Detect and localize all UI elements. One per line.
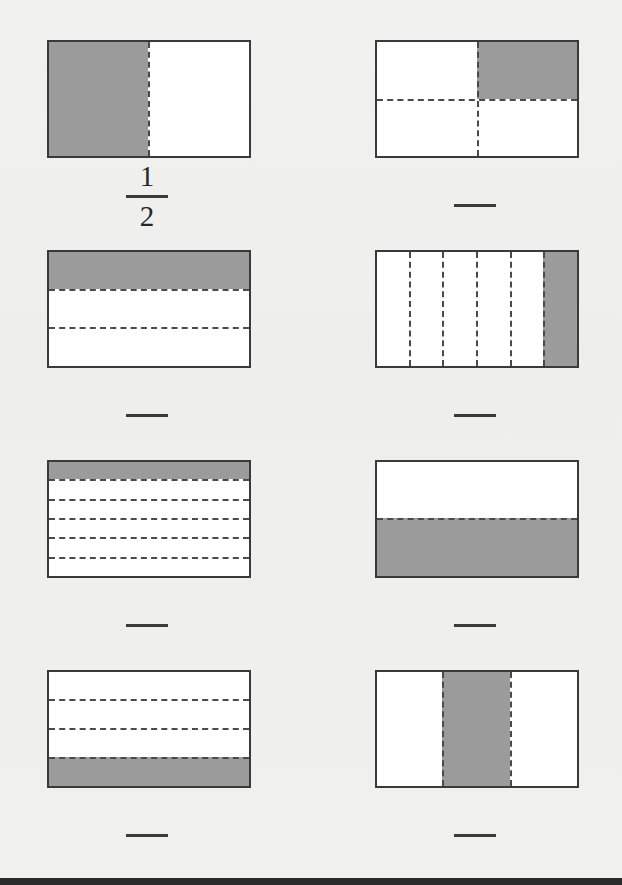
fig-8-rectangle[interactable] — [375, 670, 579, 788]
worksheet-page: 1 2 — [0, 0, 622, 885]
fig-3-part-1[interactable] — [49, 252, 249, 289]
fig-1-wrap: 1 2 — [0, 30, 311, 240]
figure-cell-2 — [311, 30, 622, 240]
fig-1-answer[interactable]: 1 2 — [47, 162, 247, 236]
fig-5-part-2[interactable] — [49, 479, 249, 498]
figure-cell-5 — [0, 450, 311, 660]
fig-4-part-2[interactable] — [409, 252, 443, 366]
fig-2-part-1[interactable] — [377, 42, 477, 99]
fig-8-part-2[interactable] — [442, 672, 509, 786]
fig-1-part-1[interactable] — [49, 42, 148, 156]
fig-5-part-4[interactable] — [49, 518, 249, 537]
fig-1-denominator: 2 — [140, 202, 155, 231]
fig-2-rectangle[interactable] — [375, 40, 579, 158]
fig-6-part-2[interactable] — [377, 518, 577, 576]
fig-4-part-1[interactable] — [377, 252, 409, 366]
fig-5-rectangle[interactable] — [47, 460, 251, 578]
fig-4-part-6[interactable] — [543, 252, 577, 366]
fig-5-answer[interactable] — [47, 582, 247, 656]
fig-2-part-4[interactable] — [477, 99, 577, 156]
fig-2-wrap — [311, 30, 622, 240]
fig-2-part-2[interactable] — [477, 42, 577, 99]
fig-6-part-1[interactable] — [377, 462, 577, 518]
fig-7-part-4[interactable] — [49, 757, 249, 786]
fig-6-wrap — [311, 450, 622, 660]
fig-2-answer[interactable] — [375, 162, 575, 236]
fig-7-part-1[interactable] — [49, 672, 249, 699]
figure-cell-6 — [311, 450, 622, 660]
fig-7-fraction-bar — [126, 834, 168, 837]
fig-7-rectangle[interactable] — [47, 670, 251, 788]
fig-4-part-5[interactable] — [510, 252, 544, 366]
figure-grid: 1 2 — [0, 0, 622, 878]
fig-8-answer[interactable] — [375, 792, 575, 866]
fig-8-part-3[interactable] — [510, 672, 577, 786]
fig-3-rectangle[interactable] — [47, 250, 251, 368]
fig-5-wrap — [0, 450, 311, 660]
fig-7-answer[interactable] — [47, 792, 247, 866]
fig-4-part-4[interactable] — [476, 252, 510, 366]
fig-4-part-3[interactable] — [442, 252, 476, 366]
fig-5-part-5[interactable] — [49, 537, 249, 556]
fig-8-wrap — [311, 660, 622, 870]
fig-5-part-1[interactable] — [49, 462, 249, 479]
fig-5-part-3[interactable] — [49, 499, 249, 518]
fig-7-part-2[interactable] — [49, 699, 249, 728]
fig-8-part-1[interactable] — [377, 672, 442, 786]
fig-3-part-2[interactable] — [49, 289, 249, 328]
fig-2-part-3[interactable] — [377, 99, 477, 156]
fig-5-fraction-bar — [126, 624, 168, 627]
fig-1-part-2[interactable] — [148, 42, 249, 156]
figure-cell-7 — [0, 660, 311, 870]
fig-4-rectangle[interactable] — [375, 250, 579, 368]
fig-7-wrap — [0, 660, 311, 870]
fig-2-vertical-divider — [477, 42, 479, 156]
fig-4-answer[interactable] — [375, 372, 575, 446]
fig-7-part-3[interactable] — [49, 728, 249, 757]
fig-4-fraction-bar — [454, 414, 496, 417]
fig-3-answer[interactable] — [47, 372, 247, 446]
fig-3-fraction-bar — [126, 414, 168, 417]
fig-6-fraction-bar — [454, 624, 496, 627]
fig-6-answer[interactable] — [375, 582, 575, 656]
figure-cell-3 — [0, 240, 311, 450]
figure-cell-1: 1 2 — [0, 30, 311, 240]
fig-8-fraction-bar — [454, 834, 496, 837]
figure-cell-8 — [311, 660, 622, 870]
fig-1-numerator: 1 — [140, 162, 155, 191]
fig-3-part-3[interactable] — [49, 327, 249, 366]
fig-4-wrap — [311, 240, 622, 450]
fig-1-rectangle[interactable] — [47, 40, 251, 158]
fig-2-fraction-bar — [454, 204, 496, 207]
fig-6-rectangle[interactable] — [375, 460, 579, 578]
fig-1-fraction-bar — [126, 195, 168, 198]
figure-cell-4 — [311, 240, 622, 450]
fig-5-part-6[interactable] — [49, 557, 249, 576]
fig-3-wrap — [0, 240, 311, 450]
page-bottom-edge — [0, 878, 622, 885]
